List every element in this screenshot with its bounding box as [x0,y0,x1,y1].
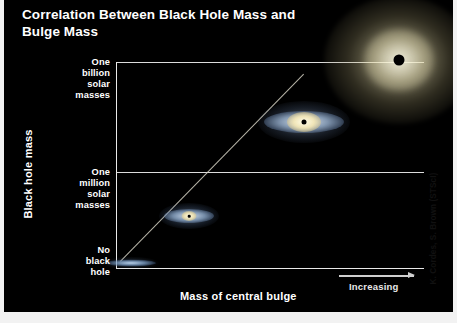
data-point-dwarf-disk-galaxy [103,255,159,271]
y-tick-label-one-million: Onemillionsolarmasses [48,167,110,211]
x-axis-increasing-label: Increasing [349,281,399,292]
x-axis-increasing-arrow-icon [339,275,414,277]
black-hole-marker [188,215,191,218]
y-axis-line [116,62,117,268]
data-point-giant-elliptical-galaxy [324,0,453,126]
right-frame-strip [453,0,457,323]
black-hole-marker [302,120,307,125]
image-credit: K. Cordes, S. Brown (STScI) [429,145,438,285]
figure-container: Correlation Between Black Hole Mass and … [0,0,457,323]
y-axis-title: Black hole mass [22,114,34,234]
y-tick-label-no-black-hole: Noblackhole [48,245,110,278]
galaxy-disk [106,260,156,267]
x-axis-line [116,268,424,269]
gridline-one-million [116,172,424,173]
page-title: Correlation Between Black Hole Mass and … [22,7,322,41]
y-tick-label-one-billion: Onebillionsolarmasses [48,57,110,101]
plot-canvas: Correlation Between Black Hole Mass and … [4,0,453,312]
x-axis-title: Mass of central bulge [180,290,297,302]
data-point-small-spiral-galaxy [159,201,219,231]
black-hole-marker [394,55,405,66]
